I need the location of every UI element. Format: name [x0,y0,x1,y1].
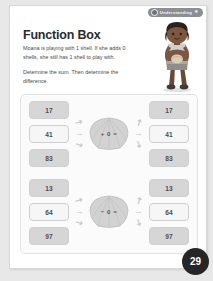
addition-operator-label: + 0 = [88,131,130,137]
subtraction-operator-label: − 0 = [88,209,130,215]
arrow-in-bottom-icon: ↘ [73,139,84,151]
worksheet-sheet: Understanding ★ Function Box Moana is pl… [9,5,207,269]
output-box[interactable]: 13 [149,179,189,197]
addition-arrows: ↗ → ↘ + 0 = ↗ [69,98,149,170]
function-box-panel: 17 41 83 ↗ → ↘ [20,94,198,254]
output-box[interactable]: 17 [149,101,189,119]
arrow-out-mid-icon: → [134,207,143,216]
instructions: Moana is playing with 1 shell. If she ad… [23,44,135,92]
output-box[interactable]: 83 [149,149,189,167]
page-title: Function Box [23,28,100,42]
worksheet-page: Understanding ★ Function Box Moana is pl… [0,0,213,281]
badge-label: Understanding [160,10,192,15]
addition-group: 17 41 83 ↗ → ↘ [21,98,197,170]
subtraction-input-column: 13 64 97 [29,179,69,245]
arrow-out-top-icon: ↗ [133,195,144,207]
subtraction-shell-operator: − 0 = [88,195,130,229]
input-box[interactable]: 83 [29,149,69,167]
understanding-badge: Understanding ★ [148,8,203,17]
instruction-paragraph-1: Moana is playing with 1 shell. If she ad… [23,44,135,63]
input-box[interactable]: 64 [29,203,69,221]
circle-check-icon [151,9,158,16]
subtraction-group: 13 64 97 ↗ → ↘ [21,176,197,248]
addition-shell-operator: + 0 = [88,117,130,151]
page-number-badge: 29 [182,248,209,275]
subtraction-output-column: 13 64 97 [149,179,189,245]
input-box[interactable]: 13 [29,179,69,197]
arrow-in-top-icon: ↗ [73,117,84,129]
input-box[interactable]: 41 [29,125,69,143]
instruction-paragraph-2: Determine the sum. Then determine the di… [23,68,135,87]
output-box[interactable]: 64 [149,203,189,221]
subtraction-arrows: ↗ → ↘ − 0 = ↗ [69,176,149,248]
arrow-in-top-icon: ↗ [73,195,84,207]
output-box[interactable]: 41 [149,125,189,143]
character-illustration [154,20,200,92]
input-box[interactable]: 97 [29,227,69,245]
arrow-out-mid-icon: → [134,129,143,138]
addition-input-column: 17 41 83 [29,101,69,167]
arrow-out-top-icon: ↗ [133,117,144,129]
star-icon: ★ [194,10,198,15]
arrow-in-bottom-icon: ↘ [73,217,84,229]
input-box[interactable]: 17 [29,101,69,119]
arrow-out-bottom-icon: ↘ [133,139,144,151]
arrow-out-bottom-icon: ↘ [133,217,144,229]
addition-output-column: 17 41 83 [149,101,189,167]
output-box[interactable]: 97 [149,227,189,245]
